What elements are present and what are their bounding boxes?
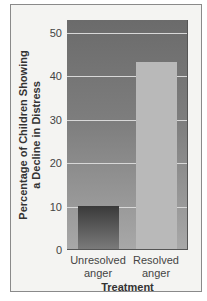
x-category-resolved: Resolved anger (126, 254, 186, 280)
x-category-unresolved: Unresolved anger (68, 254, 128, 280)
y-tick-label: 10 (42, 201, 62, 213)
y-tick-label: 40 (42, 70, 62, 82)
x-category-line: Resolved (126, 254, 186, 267)
y-tick-label: 20 (42, 157, 62, 169)
plot-area (67, 20, 188, 250)
y-tick-label: 50 (42, 27, 62, 39)
y-axis-label: Percentage of Children Showing a Decline… (17, 35, 43, 235)
x-category-line: Unresolved (68, 254, 128, 267)
bar-unresolved-anger (78, 206, 119, 249)
gridline (67, 33, 187, 34)
x-axis-label: Treatment (67, 281, 188, 293)
y-tick-label: 0 (42, 244, 62, 256)
x-category-line: anger (68, 267, 128, 280)
y-axis-label-line-1: Percentage of Children Showing (17, 35, 30, 235)
x-category-line: anger (126, 267, 186, 280)
y-tick-label: 30 (42, 114, 62, 126)
bar-resolved-anger (136, 62, 177, 249)
